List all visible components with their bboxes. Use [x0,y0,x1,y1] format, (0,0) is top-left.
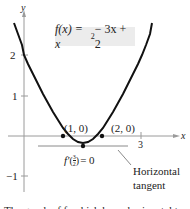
horizontal-tangent-label-line1: Horizontal [133,166,180,177]
equation-rhs: − 3x + 2 [95,22,135,52]
y-axis-label: y [21,3,25,13]
point-label-2-0: (2, 0) [111,123,135,134]
derivative-eq: = 0 [80,155,94,166]
figure: y x 2 1 −1 3 f(x) = x2 − 3x + 2 (1, 0) (… [0,0,190,209]
function-equation-box: f(x) = x2 − 3x + 2 [55,27,135,46]
tangent-pointer-line [118,150,131,165]
tick-label-x-3: 3 [138,140,143,150]
horizontal-tangent-label-line2: tangent [133,180,165,191]
point-label-1-0: (1, 0) [64,123,88,134]
point-1-0 [61,134,65,138]
x-axis-label: x [181,131,185,141]
tick-label-y-neg1: −1 [6,171,18,182]
x-axis-arrow-icon [173,134,180,138]
point-2-0 [100,134,104,138]
tick-label-y-1: 1 [12,91,18,102]
vertex-point [81,144,85,148]
figure-caption: The graph of f, which has a horizontal t… [4,204,190,209]
tick-label-y-2: 2 [10,50,16,61]
equation-lhs: f(x) = x [55,22,91,52]
derivative-annotation: f′ ( 3 2 ) = 0 [64,154,95,167]
